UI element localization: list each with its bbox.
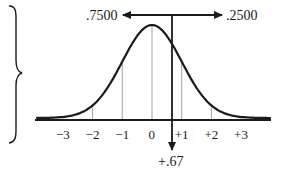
right-area-label: .2500 bbox=[226, 9, 258, 23]
tick-label--2: −2 bbox=[86, 128, 100, 141]
z-marker-label: +.67 bbox=[158, 155, 183, 169]
left-area-label: .7500 bbox=[86, 9, 118, 23]
tick-label-1: +1 bbox=[175, 128, 189, 141]
bell-curve bbox=[36, 25, 271, 118]
tick-label--1: −1 bbox=[115, 128, 129, 141]
tick-label--3: −3 bbox=[56, 128, 70, 141]
tick-label-2: +2 bbox=[204, 128, 218, 141]
normal-curve-diagram: .7500 .2500 +.67 −3−2−10+1+2+3 bbox=[0, 0, 286, 176]
curly-brace-icon bbox=[9, 6, 22, 143]
z-gridlines bbox=[63, 25, 241, 120]
tick-label-0: 0 bbox=[149, 128, 156, 141]
normal-curve-graphic bbox=[0, 0, 286, 176]
tick-label-3: +3 bbox=[234, 128, 248, 141]
